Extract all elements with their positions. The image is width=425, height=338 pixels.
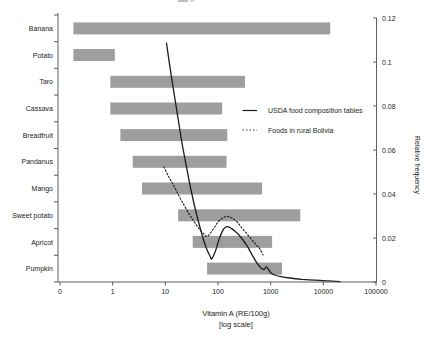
cropped-text-fragment — [190, 0, 194, 2]
x-tick-label: 0 — [58, 288, 62, 295]
legend-label: Foods in rural Bolivia — [268, 127, 333, 134]
bar-banana — [73, 22, 330, 34]
x-tick-label: 100 — [212, 288, 224, 295]
legend-label: USDA food composition tables — [268, 107, 363, 115]
category-label-banana: Banana — [29, 25, 53, 32]
x-tick-label: 1 — [111, 288, 115, 295]
x-tick-label: 10000 — [314, 288, 334, 295]
y-tick-label: 0.06 — [382, 147, 396, 154]
cropped-text-fragment — [178, 0, 188, 2]
x-axis-title-line2: [log scale] — [219, 320, 253, 329]
vitamin-a-range-chart-figure: BananaPotatoTaroCassavaBreadfruitPandanu… — [0, 0, 425, 338]
bar-cassava — [110, 103, 222, 115]
bar-mango — [142, 183, 262, 195]
category-label-cassava: Cassava — [26, 105, 53, 112]
bar-taro — [110, 76, 245, 88]
bar-pandanus — [133, 156, 227, 168]
category-label-apricot: Apricot — [31, 239, 53, 247]
y-tick-label: 0.02 — [382, 235, 396, 242]
bar-breadfruit — [120, 129, 227, 141]
category-label-breadfruit: Breadfruit — [23, 132, 53, 139]
y-tick-label: 0 — [382, 279, 386, 286]
category-label-potato: Potato — [33, 52, 53, 59]
x-tick-label: 10 — [161, 288, 169, 295]
x-tick-label: 100000 — [364, 288, 387, 295]
category-label-sweet-potato: Sweet potato — [12, 212, 53, 220]
category-label-pumpkin: Pumpkin — [26, 265, 53, 273]
category-label-taro: Taro — [39, 78, 53, 85]
y-tick-label: 0.1 — [382, 59, 392, 66]
y-tick-label: 0.04 — [382, 191, 396, 198]
category-label-mango: Mango — [32, 185, 54, 193]
vitamin-a-chart-canvas: BananaPotatoTaroCassavaBreadfruitPandanu… — [0, 0, 425, 338]
y-tick-label: 0.08 — [382, 103, 396, 110]
category-label-pandanus: Pandanus — [21, 158, 53, 165]
x-tick-label: 1000 — [263, 288, 279, 295]
y-tick-label: 0.12 — [382, 15, 396, 22]
x-axis-title-line1: Vitamin A (RE/100g) — [202, 309, 270, 318]
bar-potato — [73, 49, 114, 61]
right-axis-title: Relative frequency — [413, 136, 421, 194]
